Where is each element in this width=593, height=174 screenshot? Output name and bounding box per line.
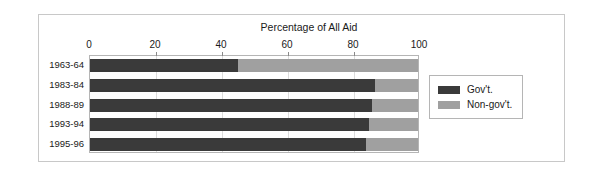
- bar-segment[interactable]: [372, 99, 418, 112]
- bar-row[interactable]: [90, 138, 418, 151]
- bar-row[interactable]: [90, 99, 418, 112]
- bars-layer: [90, 56, 418, 152]
- chart-legend: Gov't. Non-gov't.: [429, 75, 523, 119]
- x-tick-label: 40: [215, 39, 226, 50]
- legend-entry-nongov[interactable]: Non-gov't.: [438, 97, 512, 112]
- plot-area: [89, 55, 419, 153]
- chart-frame: Percentage of All Aid 020406080100 1963-…: [38, 14, 565, 162]
- bar-segment[interactable]: [366, 138, 418, 151]
- category-label: 1963-64: [49, 59, 84, 70]
- bar-row[interactable]: [90, 59, 418, 72]
- x-tick-label: 20: [149, 39, 160, 50]
- y-axis-category-labels: 1963-641983-841988-891993-941995-96: [39, 55, 87, 153]
- legend-label-nongov: Non-gov't.: [467, 99, 512, 110]
- bar-segment[interactable]: [238, 59, 418, 72]
- x-tick-label: 60: [281, 39, 292, 50]
- bar-row[interactable]: [90, 118, 418, 131]
- x-tick-label: 0: [86, 39, 92, 50]
- legend-swatch-nongov-icon: [438, 101, 460, 109]
- category-label: 1988-89: [49, 99, 84, 110]
- bar-segment[interactable]: [90, 118, 369, 131]
- chart-title: Percentage of All Aid: [209, 21, 409, 33]
- x-tick-label: 100: [411, 39, 428, 50]
- legend-entry-gov[interactable]: Gov't.: [438, 82, 512, 97]
- bar-segment[interactable]: [90, 138, 366, 151]
- category-label: 1995-96: [49, 138, 84, 149]
- bar-segment[interactable]: [375, 79, 418, 92]
- x-axis-tick-labels: 020406080100: [39, 39, 564, 53]
- bar-segment[interactable]: [90, 99, 372, 112]
- x-tick-label: 80: [347, 39, 358, 50]
- category-label: 1983-84: [49, 79, 84, 90]
- bar-row[interactable]: [90, 79, 418, 92]
- category-label: 1993-94: [49, 118, 84, 129]
- legend-label-gov: Gov't.: [467, 84, 493, 95]
- bar-segment[interactable]: [90, 79, 375, 92]
- bar-segment[interactable]: [369, 118, 418, 131]
- legend-swatch-gov-icon: [438, 86, 460, 94]
- bar-segment[interactable]: [90, 59, 238, 72]
